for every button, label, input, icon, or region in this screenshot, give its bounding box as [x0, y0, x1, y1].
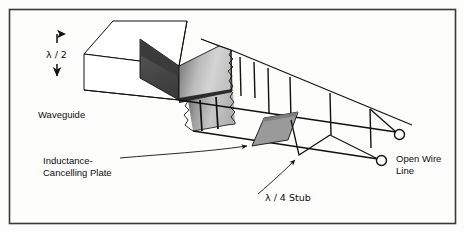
label-quarter-wave-stub: λ / 4 Stub: [265, 192, 311, 203]
upper-guide-rail: [231, 50, 412, 125]
figure-root: λ / 2 Waveguide Inductance- Cancelling P…: [0, 0, 465, 233]
waveguide-transition-diagram: λ / 2 Waveguide Inductance- Cancelling P…: [0, 0, 465, 233]
label-inductance-plate-line1: Inductance-: [43, 155, 93, 166]
strut-3: [268, 68, 269, 113]
quarter-wave-stub-shape: [291, 120, 330, 155]
leader-quarter-wave-stub: [258, 160, 295, 194]
terminal-circle-lower: [377, 156, 387, 166]
strut-2: [254, 62, 255, 98]
label-open-wire-line2: Line: [396, 165, 414, 176]
label-inductance-plate-line2: Cancelling Plate: [43, 167, 112, 178]
strut-5: [330, 93, 331, 135]
label-half-wavelength: λ / 2: [46, 49, 67, 60]
label-waveguide: Waveguide: [38, 109, 85, 120]
strut-6: [370, 109, 371, 148]
terminal-circle-upper: [395, 130, 405, 140]
strut-1: [240, 57, 241, 96]
label-open-wire-line1: Open Wire: [396, 153, 441, 164]
leader-inductance-plate: [120, 146, 247, 158]
